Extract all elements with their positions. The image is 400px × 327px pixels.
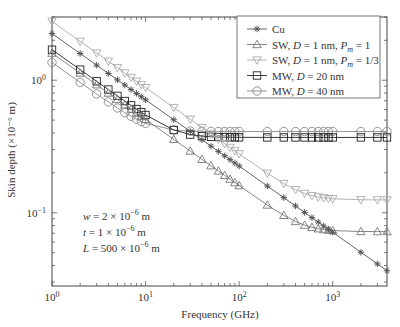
annotation-line: w = 2 × 10−6 m: [83, 208, 151, 222]
x-tick-label: 103: [325, 290, 340, 303]
svg-text:MW, D = 20 nm: MW, D = 20 nm: [272, 70, 345, 82]
svg-text:Cu: Cu: [272, 23, 285, 35]
y-tick-label: 100: [31, 73, 46, 86]
x-tick-label: 100: [45, 290, 60, 303]
x-axis-title: Frequency (GHz): [181, 308, 259, 321]
annotation-line: L = 500 × 10−6 m: [82, 240, 160, 254]
x-tick-label: 102: [232, 290, 247, 303]
x-tick-label: 101: [138, 290, 153, 303]
annotation-line: t = 1 × 10−6 m: [83, 224, 146, 238]
y-tick-label: 10−1: [26, 206, 46, 219]
svg-text:MW, D = 40 nm: MW, D = 40 nm: [272, 85, 345, 97]
y-axis-title: Skin depth (×10⁻⁶ m): [5, 102, 18, 198]
skin-depth-chart: 10010110210310010−1 Frequency (GHz) Skin…: [0, 0, 400, 327]
legend: CuSW, D = 1 nm, Pm = 1SW, D = 1 nm, Pm =…: [237, 16, 380, 98]
